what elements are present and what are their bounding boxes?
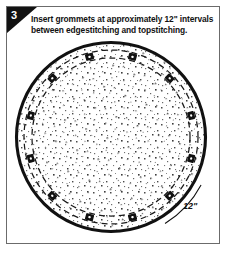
instruction-line-1: Insert grommets at approximately 12" int… — [31, 14, 214, 25]
step-number-label: 3 — [11, 9, 17, 21]
diagram-figure: 12" — [7, 37, 219, 243]
fabric-fill — [18, 44, 204, 230]
instruction-panel: 3 Insert grommets at approximately 12" i… — [6, 6, 220, 244]
round-cover-diagram: 12" — [7, 37, 219, 243]
instruction-line-2: between edgestitching and topstitching. — [31, 25, 214, 36]
instruction-text: Insert grommets at approximately 12" int… — [31, 14, 214, 37]
callout-label: 12" — [183, 201, 198, 211]
